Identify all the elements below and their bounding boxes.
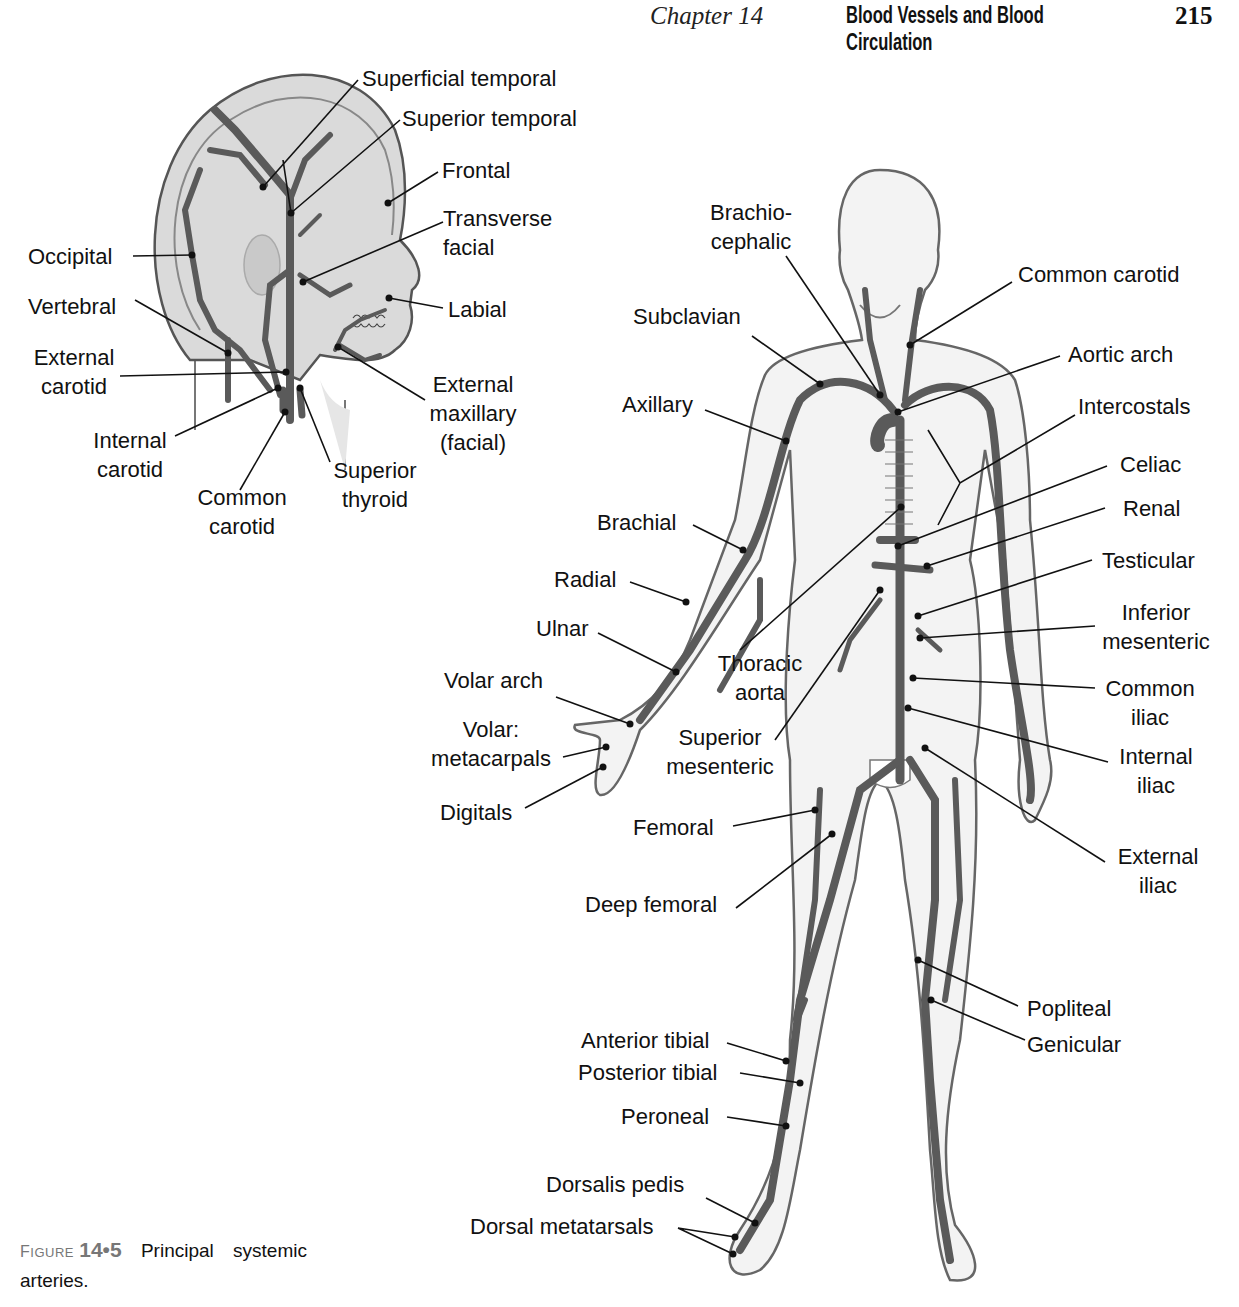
label-dorsal-metatarsals: Dorsal metatarsals [470, 1212, 653, 1241]
label-digitals: Digitals [440, 798, 512, 827]
label-common-carotid-body: Common carotid [1018, 260, 1179, 289]
figure-caption: FIGURE 14•5 Principal systemic arteries. [20, 1236, 350, 1295]
label-testicular: Testicular [1102, 546, 1195, 575]
label-superior-thyroid: Superior thyroid [323, 456, 427, 514]
label-posterior-tibial: Posterior tibial [578, 1058, 717, 1087]
label-internal-carotid: Internal carotid [85, 426, 175, 484]
label-superficial-temporal: Superficial temporal [362, 64, 556, 93]
label-superior-mesenteric: Superior mesenteric [664, 723, 776, 781]
label-brachial: Brachial [597, 508, 676, 537]
label-occipital: Occipital [28, 242, 112, 271]
caption-text-line1: Principal systemic [141, 1240, 307, 1261]
label-external-maxillary: External maxillary (facial) [418, 370, 528, 457]
label-external-iliac: External iliac [1108, 842, 1208, 900]
label-transverse-facial: Transverse facial [443, 204, 552, 262]
label-vertebral: Vertebral [28, 292, 116, 321]
label-ulnar: Ulnar [536, 614, 589, 643]
label-external-carotid: External carotid [28, 343, 120, 401]
label-dorsalis-pedis: Dorsalis pedis [546, 1170, 684, 1199]
label-celiac: Celiac [1120, 450, 1181, 479]
label-subclavian: Subclavian [633, 302, 741, 331]
label-brachiocephalic: Brachio- cephalic [696, 198, 806, 256]
label-thoracic-aorta: Thoracic aorta [708, 649, 812, 707]
figure-word: FIGURE [20, 1243, 74, 1260]
label-aortic-arch: Aortic arch [1068, 340, 1173, 369]
label-femoral: Femoral [633, 813, 714, 842]
label-popliteal: Popliteal [1027, 994, 1111, 1023]
figure-number: 14•5 [79, 1238, 121, 1261]
label-common-iliac: Common iliac [1100, 674, 1200, 732]
body-diagram [525, 170, 1108, 1280]
label-genicular: Genicular [1027, 1030, 1121, 1059]
label-axillary: Axillary [622, 390, 693, 419]
label-superior-temporal: Superior temporal [402, 104, 577, 133]
caption-text-line2: arteries. [20, 1270, 89, 1291]
label-volar-arch: Volar arch [444, 666, 543, 695]
label-deep-femoral: Deep femoral [585, 890, 717, 919]
label-peroneal: Peroneal [621, 1102, 709, 1131]
label-inferior-mesenteric: Inferior mesenteric [1094, 598, 1218, 656]
arteries-illustration [0, 0, 1239, 1307]
label-renal: Renal [1123, 494, 1180, 523]
label-volar-metacarpals: Volar: metacarpals [424, 715, 558, 773]
label-labial: Labial [448, 295, 507, 324]
label-common-carotid-head: Common carotid [187, 483, 297, 541]
label-intercostals: Intercostals [1078, 392, 1191, 421]
label-internal-iliac: Internal iliac [1108, 742, 1204, 800]
label-radial: Radial [554, 565, 616, 594]
label-anterior-tibial: Anterior tibial [581, 1026, 709, 1055]
label-frontal: Frontal [442, 156, 510, 185]
